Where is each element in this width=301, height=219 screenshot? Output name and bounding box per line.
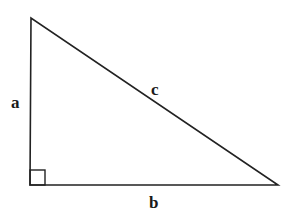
label-b: b bbox=[149, 193, 158, 212]
label-c: c bbox=[151, 80, 159, 99]
triangle bbox=[30, 18, 278, 185]
right-triangle-diagram: a c b bbox=[0, 0, 301, 219]
label-a: a bbox=[11, 93, 20, 112]
right-angle-marker bbox=[30, 170, 45, 185]
